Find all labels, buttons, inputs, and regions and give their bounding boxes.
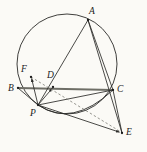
point-a <box>87 19 89 21</box>
point-e <box>121 132 123 134</box>
point-d <box>52 86 54 88</box>
vertex-label-e: E <box>126 128 132 138</box>
point-c <box>112 89 114 91</box>
point-f <box>30 76 32 78</box>
segment-c-e <box>113 90 122 133</box>
geometry-figure: A B C D E F P <box>0 0 147 152</box>
segment-b-c <box>18 88 113 90</box>
segment-p-e <box>38 105 120 132</box>
vertex-label-p: P <box>30 109 36 119</box>
vertex-label-c: C <box>117 85 123 95</box>
vertex-label-d: D <box>47 71 54 81</box>
point-p <box>37 104 39 106</box>
segment-b-p <box>18 88 38 105</box>
vertex-label-a: A <box>89 7 95 17</box>
segment-a-c <box>88 20 113 90</box>
segment-p-f <box>32 79 38 106</box>
vertex-label-f: F <box>21 65 27 75</box>
vertex-label-b: B <box>8 84 14 94</box>
arc-p-to-c <box>38 90 113 114</box>
segment-a-p <box>38 20 88 105</box>
geometry-canvas <box>0 0 147 152</box>
segment-a-e <box>88 20 122 133</box>
point-b <box>17 87 19 89</box>
